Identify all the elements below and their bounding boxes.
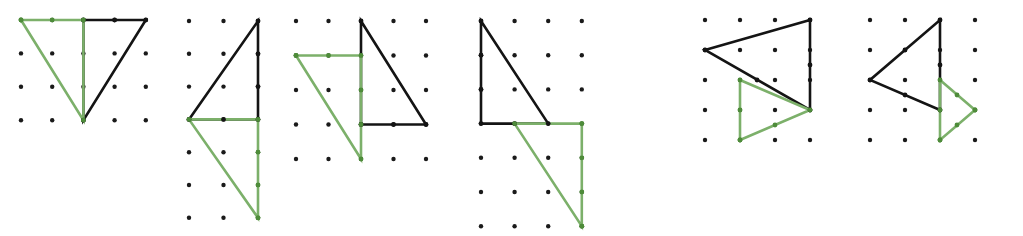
lattice-dot — [903, 138, 907, 142]
lattice-dot — [773, 108, 777, 112]
lattice-dot — [391, 53, 395, 57]
lattice-dot — [479, 190, 483, 194]
lattice-dot — [512, 224, 516, 228]
lattice-dot — [187, 183, 191, 187]
black-vertex-dot — [903, 93, 908, 98]
green-vertex-dot — [81, 18, 86, 23]
green-vertex-dot — [359, 122, 364, 127]
green-vertex-dot — [359, 88, 364, 93]
lattice-dot — [19, 51, 23, 55]
lattice-dot — [221, 84, 225, 88]
green-vertex-dot — [579, 121, 584, 126]
green-vertex-dot — [579, 155, 584, 160]
lattice-dot — [391, 157, 395, 161]
lattice-dot — [868, 48, 872, 52]
black-vertex-dot — [546, 121, 551, 126]
lattice-dot — [221, 150, 225, 154]
figure-background — [0, 0, 1023, 236]
lattice-dot — [424, 19, 428, 23]
lattice-dot — [326, 19, 330, 23]
lattice-dot — [546, 224, 550, 228]
lattice-dot — [868, 138, 872, 142]
lattice-dot — [546, 156, 550, 160]
lattice-dot — [144, 85, 148, 89]
lattice-dot — [50, 118, 54, 122]
green-vertex-dot — [938, 138, 943, 143]
lattice-dot — [703, 78, 707, 82]
lattice-dot — [424, 88, 428, 92]
lattice-dot — [294, 88, 298, 92]
green-vertex-dot — [19, 18, 24, 23]
lattice-dot — [144, 118, 148, 122]
green-vertex-dot — [938, 78, 943, 83]
green-vertex-dot — [955, 123, 960, 128]
lattice-dot — [326, 157, 330, 161]
black-vertex-dot — [221, 117, 226, 122]
lattice-dot — [112, 51, 116, 55]
green-vertex-dot — [738, 138, 743, 143]
lattice-dot — [868, 18, 872, 22]
black-vertex-dot — [808, 18, 813, 23]
black-vertex-dot — [755, 78, 760, 83]
black-vertex-dot — [256, 84, 261, 89]
green-vertex-dot — [256, 150, 261, 155]
lattice-dot — [973, 138, 977, 142]
lattice-dot — [221, 19, 225, 23]
lattice-dot — [221, 52, 225, 56]
green-vertex-dot — [326, 53, 331, 58]
lattice-dot — [294, 122, 298, 126]
lattice-dot — [512, 19, 516, 23]
lattice-dot — [294, 19, 298, 23]
lattice-dot — [19, 85, 23, 89]
black-vertex-dot — [391, 122, 396, 127]
lattice-dot — [221, 183, 225, 187]
lattice-dot — [973, 18, 977, 22]
lattice-dot — [187, 52, 191, 56]
lattice-dot — [424, 157, 428, 161]
lattice-dot — [546, 190, 550, 194]
black-vertex-dot — [143, 18, 148, 23]
lattice-dot — [326, 122, 330, 126]
green-vertex-dot — [512, 121, 517, 126]
lattice-dot — [391, 88, 395, 92]
black-vertex-dot — [424, 122, 429, 127]
black-vertex-dot — [868, 78, 873, 83]
lattice-dot — [479, 156, 483, 160]
lattice-dot — [546, 19, 550, 23]
lattice-dot — [512, 87, 516, 91]
green-vertex-dot — [579, 224, 584, 229]
lattice-dot — [738, 18, 742, 22]
black-vertex-dot — [359, 19, 364, 24]
green-vertex-dot — [81, 118, 86, 123]
black-vertex-dot — [256, 51, 261, 56]
lattice-dot — [903, 78, 907, 82]
lattice-dot — [187, 84, 191, 88]
lattice-dot — [50, 85, 54, 89]
lattice-dot — [187, 216, 191, 220]
green-vertex-dot — [773, 123, 778, 128]
lattice-dot — [703, 108, 707, 112]
green-vertex-dot — [359, 157, 364, 162]
lattice-dot — [19, 118, 23, 122]
lattice-dot — [580, 19, 584, 23]
lattice-dot — [868, 108, 872, 112]
lattice-dot — [50, 51, 54, 55]
black-vertex-dot — [479, 53, 484, 58]
green-vertex-dot — [359, 53, 364, 58]
lattice-dot — [703, 18, 707, 22]
lattice-dot — [112, 118, 116, 122]
lattice-dot — [773, 78, 777, 82]
lattice-dot — [546, 53, 550, 57]
figure-container — [0, 0, 1023, 236]
black-vertex-dot — [808, 63, 813, 68]
lattice-dot — [512, 156, 516, 160]
green-vertex-dot — [738, 78, 743, 83]
black-vertex-dot — [479, 19, 484, 24]
lattice-dot — [326, 88, 330, 92]
black-vertex-dot — [256, 19, 261, 24]
lattice-dot — [973, 78, 977, 82]
lattice-dot — [187, 150, 191, 154]
black-vertex-dot — [479, 121, 484, 126]
green-vertex-dot — [256, 215, 261, 220]
green-vertex-dot — [938, 108, 943, 113]
